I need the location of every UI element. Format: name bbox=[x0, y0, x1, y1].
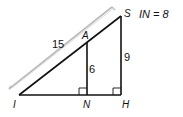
point-label-N: N bbox=[83, 99, 91, 110]
right-angle-marker-N bbox=[79, 88, 87, 95]
right-angle-marker-H bbox=[113, 88, 121, 95]
similar-triangles-diagram: 15 6 9 A S I N H IN = 8 bbox=[0, 0, 183, 117]
point-label-A: A bbox=[81, 30, 89, 41]
measure-SH: 9 bbox=[124, 51, 130, 63]
segment-IS bbox=[19, 16, 121, 95]
point-label-S: S bbox=[124, 8, 131, 19]
point-label-H: H bbox=[122, 99, 130, 110]
measure-IS: 15 bbox=[52, 38, 64, 50]
given-statement: IN = 8 bbox=[139, 8, 170, 20]
point-label-I: I bbox=[13, 99, 16, 110]
measure-AN: 6 bbox=[89, 63, 95, 75]
